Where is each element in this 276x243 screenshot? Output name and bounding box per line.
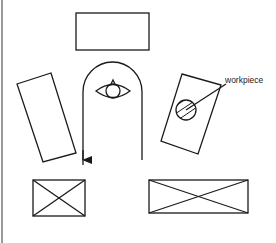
robot-path xyxy=(83,62,142,160)
left-station xyxy=(17,73,76,162)
workpiece-leader-line xyxy=(186,84,226,110)
bottom-right-station xyxy=(149,180,248,213)
workpiece-label: workpiece xyxy=(224,75,264,85)
robot-icon xyxy=(96,80,130,98)
top-station xyxy=(76,13,149,50)
right-station xyxy=(161,74,221,154)
workcell-diagram: workpiece xyxy=(0,0,276,243)
workpiece-icon xyxy=(170,96,202,126)
bottom-left-station xyxy=(33,180,85,216)
